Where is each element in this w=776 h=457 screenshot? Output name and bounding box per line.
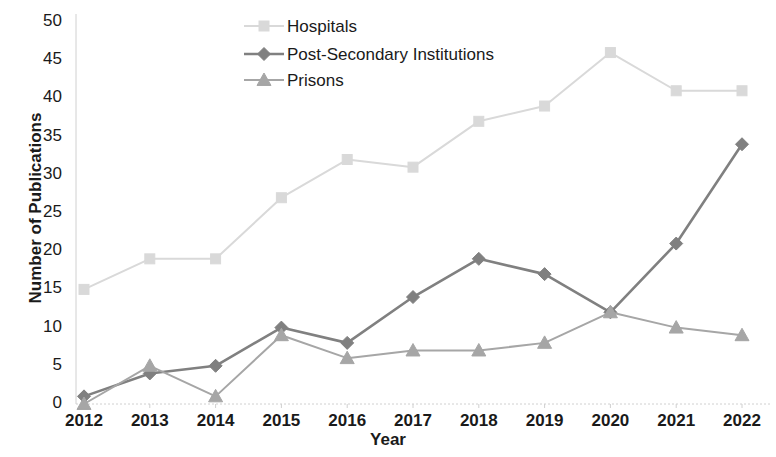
y-axis-tick-label: 50 — [22, 11, 62, 31]
series-prisons — [77, 305, 749, 409]
y-axis-tick-label: 30 — [22, 164, 62, 184]
x-axis-tick-label: 2022 — [707, 411, 776, 431]
x-axis-tick-label: 2020 — [575, 411, 645, 431]
x-axis-tick-label: 2015 — [246, 411, 316, 431]
data-point-marker — [605, 48, 615, 58]
series-line — [84, 312, 742, 404]
x-axis-tick-label: 2012 — [49, 411, 119, 431]
data-point-marker — [145, 254, 155, 264]
y-axis-tick-label: 5 — [22, 355, 62, 375]
legend-swatch-triangle-icon — [243, 70, 285, 90]
legend-item-label: Hospitals — [287, 17, 357, 37]
series-line — [84, 144, 742, 396]
data-point-marker — [671, 86, 681, 96]
x-axis-tick-label: 2018 — [444, 411, 514, 431]
series-post-secondary-institutions — [78, 138, 749, 403]
data-point-marker — [209, 359, 222, 372]
x-axis-tick-label: 2014 — [181, 411, 251, 431]
legend-swatch-diamond-icon — [243, 44, 285, 64]
y-axis-tick-label: 45 — [22, 49, 62, 69]
data-point-marker — [79, 284, 89, 294]
data-point-marker — [538, 268, 551, 281]
legend-item-label: Post-Secondary Institutions — [287, 45, 494, 65]
data-point-marker — [408, 162, 418, 172]
data-point-marker — [143, 359, 157, 371]
data-point-marker — [737, 86, 747, 96]
chart-container: Number of Publications Year 051015202530… — [0, 0, 776, 457]
x-axis-tick-label: 2019 — [510, 411, 580, 431]
x-axis-tick-label: 2013 — [115, 411, 185, 431]
y-axis-tick-label: 20 — [22, 240, 62, 260]
x-axis-tick-label: 2017 — [378, 411, 448, 431]
data-point-marker — [77, 397, 91, 409]
data-point-marker — [538, 336, 552, 348]
data-point-marker — [342, 155, 352, 165]
data-point-marker — [211, 254, 221, 264]
x-axis-tick-label: 2016 — [312, 411, 382, 431]
y-axis-tick-label: 40 — [22, 87, 62, 107]
legend-swatch-square-icon — [243, 16, 285, 36]
legend-item-label: Prisons — [287, 71, 344, 91]
x-axis-title: Year — [0, 430, 776, 450]
series-hospitals — [79, 48, 747, 295]
x-axis-tick-label: 2021 — [641, 411, 711, 431]
y-axis-tick-label: 25 — [22, 202, 62, 222]
y-axis-tick-label: 10 — [22, 317, 62, 337]
y-axis-tick-label: 15 — [22, 278, 62, 298]
y-axis-tick-label: 35 — [22, 126, 62, 146]
line-chart-plot — [0, 0, 776, 457]
data-point-marker — [540, 101, 550, 111]
data-point-marker — [276, 193, 286, 203]
data-point-marker — [472, 252, 485, 265]
y-axis-tick-label: 0 — [22, 393, 62, 413]
data-point-marker — [474, 116, 484, 126]
